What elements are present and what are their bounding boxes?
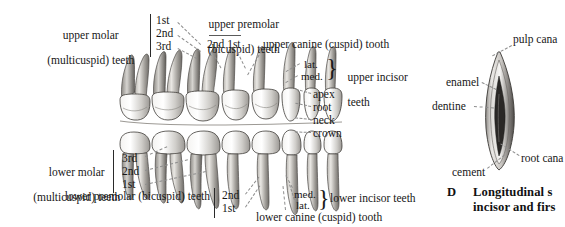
label-enamel: enamel: [446, 76, 479, 89]
figure-caption-line1: Longitudinal s: [473, 185, 552, 200]
label-lower-incisor-lat: lat.: [296, 199, 310, 211]
label-lower-molar: lower molar (multicuspid) teeth: [8, 153, 134, 216]
label-upper-incisor-lat: lat.: [304, 58, 318, 70]
label-upper-molar-line1: upper molar: [63, 29, 119, 41]
upper-premolar-brace: [209, 35, 241, 36]
label-neck: neck: [313, 114, 335, 127]
label-lower-molar-1st: 1st: [122, 178, 135, 191]
figure-id: D: [447, 185, 456, 200]
figure-caption-line2: incisor and firs: [473, 200, 556, 215]
label-dentine: dentine: [432, 100, 466, 113]
label-crown: crown: [313, 127, 342, 140]
lower-molar-brace: [113, 150, 114, 193]
label-upper-premolar: upper premolar (bicuspid) teeth: [178, 5, 298, 68]
label-upper-incisor-line2: teeth: [348, 96, 370, 108]
lower-incisor-brace: }: [318, 186, 330, 210]
label-upper-molar-1st: 1st: [156, 14, 169, 27]
label-lower-premolar-2nd: 2nd: [222, 189, 239, 202]
label-upper-molar: upper molar (multicuspid) teeth: [22, 16, 148, 79]
figure-panel-d: upper molar (multicuspid) teeth 1st 2nd …: [0, 0, 565, 227]
label-upper-incisor-line1: upper incisor: [348, 71, 408, 83]
label-cement: cement: [452, 166, 485, 179]
label-lower-incisor: lower incisor teeth: [330, 192, 416, 205]
label-upper-incisor-med: med.: [301, 70, 323, 82]
label-pulp-canal: pulp cana: [513, 33, 557, 46]
label-lower-canine: lower canine (cuspid) tooth: [256, 211, 382, 224]
label-upper-molar-2nd: 2nd: [156, 27, 173, 40]
lower-premolar-brace: [214, 188, 215, 218]
label-lower-premolar-1st: 1st: [222, 202, 235, 215]
label-upper-molar-line2: (multicuspid) teeth: [47, 54, 134, 66]
label-root: root: [313, 101, 332, 114]
label-upper-premolar-line1: upper premolar: [208, 18, 279, 30]
label-lower-molar-2nd: 2nd: [122, 165, 139, 178]
upper-molar-brace: [150, 14, 151, 57]
label-apex: apex: [313, 88, 335, 101]
label-upper-canine: upper canine (cuspid) tooth: [263, 38, 389, 51]
label-lower-premolar: lower premolar (bicuspid) teeth: [62, 190, 210, 203]
label-lower-molar-3rd: 3rd: [122, 152, 137, 165]
label-lower-molar-line1: lower molar: [49, 166, 105, 178]
label-upper-incisor: upper incisor teeth: [336, 58, 408, 121]
label-upper-premolar-items: 2nd 1st: [207, 38, 241, 51]
label-root-canal: root cana: [521, 152, 563, 165]
label-upper-molar-3rd: 3rd: [156, 40, 171, 53]
